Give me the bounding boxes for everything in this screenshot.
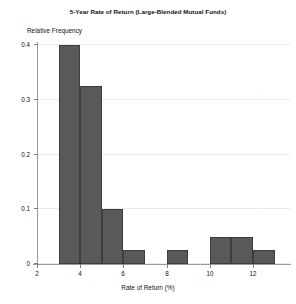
histogram-bar <box>231 237 253 264</box>
x-tick-mark <box>253 264 254 268</box>
y-tick-label: 0.1 <box>8 205 30 212</box>
histogram-bar <box>59 45 81 264</box>
chart-title: 5-Year Rate of Return (Large-Blended Mut… <box>0 8 296 15</box>
x-tick-label: 4 <box>70 270 90 277</box>
x-tick-label: 6 <box>113 270 133 277</box>
y-tick-label: 0 <box>8 260 30 267</box>
x-tick-label: 10 <box>200 270 220 277</box>
x-tick-label: 2 <box>27 270 47 277</box>
y-tick-label: 0.2 <box>8 151 30 158</box>
x-tick-mark <box>80 264 81 268</box>
histogram-bar <box>80 86 102 264</box>
x-tick-label: 12 <box>243 270 263 277</box>
x-tick-mark <box>210 264 211 268</box>
x-tick-mark <box>167 264 168 268</box>
x-tick-label: 8 <box>157 270 177 277</box>
y-tick-label: 0.4 <box>8 41 30 48</box>
histogram-bar <box>123 250 145 264</box>
histogram-bar <box>253 250 275 264</box>
bars-layer <box>37 38 290 264</box>
histogram-bar <box>102 209 124 264</box>
histogram-bar <box>210 237 232 264</box>
x-axis-label: Rate of Return (%) <box>0 284 296 291</box>
x-tick-mark <box>37 264 38 268</box>
y-axis-label: Relative Frequency <box>27 27 82 34</box>
histogram-bar <box>167 250 189 264</box>
histogram-figure: 5-Year Rate of Return (Large-Blended Mut… <box>0 0 296 304</box>
x-tick-mark <box>123 264 124 268</box>
y-tick-label: 0.3 <box>8 96 30 103</box>
